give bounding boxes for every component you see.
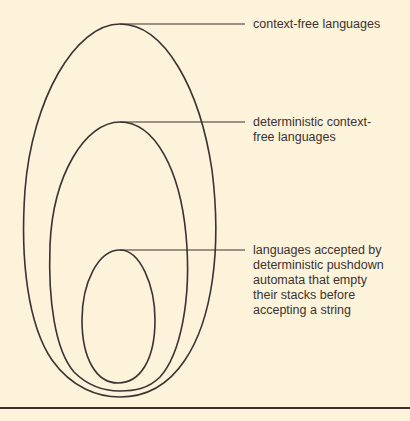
ellipse-deterministic-cfl [50, 122, 188, 391]
label-line: context-free languages [253, 17, 408, 32]
nested-sets-diagram [0, 0, 410, 421]
label-context-free-languages: context-free languages [253, 17, 408, 32]
label-line: automata that empty [253, 273, 408, 288]
label-line: languages accepted by [253, 243, 408, 258]
label-line: accepting a string [253, 303, 408, 318]
label-line: free languages [253, 130, 408, 145]
label-dpda-empty-stack: languages accepted by deterministic push… [253, 243, 408, 318]
label-line: deterministic context- [253, 115, 408, 130]
ellipse-context-free-languages [24, 24, 216, 397]
label-line: deterministic pushdown [253, 258, 408, 273]
ellipse-dpda-empty-stack [82, 250, 155, 383]
label-deterministic-cfl: deterministic context- free languages [253, 115, 408, 145]
label-line: their stacks before [253, 288, 408, 303]
